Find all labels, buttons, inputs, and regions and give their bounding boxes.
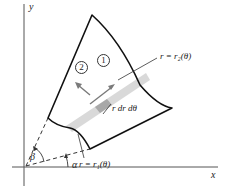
polar-region-diagram: y x r = r₂(θ) r dr dθ r = r₁(θ) α β 1 2 <box>0 0 226 192</box>
order-marker-1: 1 <box>97 54 110 67</box>
region-boundary <box>48 15 172 149</box>
area-element-label: r dr dθ <box>112 104 137 113</box>
beta-label: β <box>30 152 35 162</box>
r2-leader <box>118 58 157 80</box>
inner-curve-label: r = r₁(θ) <box>79 160 110 169</box>
outer-curve-label: r = r₂(θ) <box>160 52 191 61</box>
diagram-canvas <box>0 0 226 192</box>
y-axis-label: y <box>29 2 33 12</box>
x-axis-label: x <box>211 170 215 180</box>
order-marker-2: 2 <box>75 61 88 74</box>
alpha-label: α <box>72 160 77 170</box>
beta-arc <box>35 148 44 162</box>
